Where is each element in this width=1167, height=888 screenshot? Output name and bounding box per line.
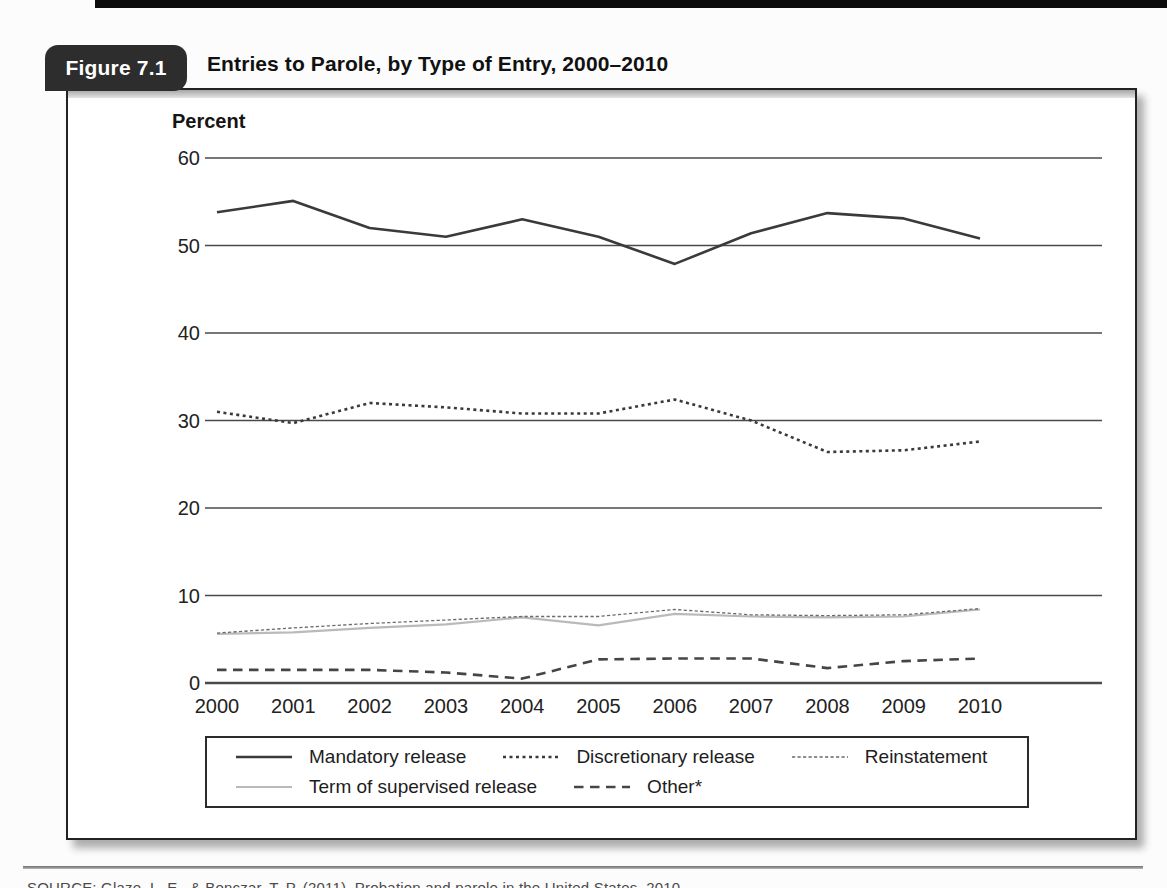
legend-label-mandatory-release: Mandatory release [309,746,466,768]
chart-legend: Mandatory releaseDiscretionary releaseRe… [205,736,1029,808]
legend-row: Term of supervised releaseOther* [235,776,1027,798]
y-axis-title: Percent [172,110,245,133]
page-bottom-rule [23,866,1143,869]
figure-title: Entries to Parole, by Type of Entry, 200… [207,52,1107,76]
legend-item-discretionary-release: Discretionary release [502,746,754,768]
legend-label-term-of-supervised-release: Term of supervised release [309,776,537,798]
legend-label-reinstatement: Reinstatement [865,746,988,768]
legend-label-other-: Other* [647,776,702,798]
figure-badge-label: Figure 7.1 [65,56,166,80]
legend-swatch-reinstatement [791,752,849,762]
legend-swatch-discretionary-release [502,752,560,762]
top-rule [95,0,1167,8]
legend-row: Mandatory releaseDiscretionary releaseRe… [235,746,1027,768]
figure-badge: Figure 7.1 [45,45,187,91]
legend-item-term-of-supervised-release: Term of supervised release [235,776,537,798]
legend-swatch-other- [573,782,631,792]
source-note: SOURCE: Glaze, L. E., & Bonczar, T. P. (… [27,879,1127,888]
legend-item-mandatory-release: Mandatory release [235,746,466,768]
legend-item-reinstatement: Reinstatement [791,746,988,768]
legend-label-discretionary-release: Discretionary release [576,746,754,768]
panel-top-shade [68,90,1135,98]
legend-swatch-term-of-supervised-release [235,782,293,792]
legend-swatch-mandatory-release [235,752,293,762]
legend-item-other-: Other* [573,776,702,798]
chart-panel [66,88,1137,840]
